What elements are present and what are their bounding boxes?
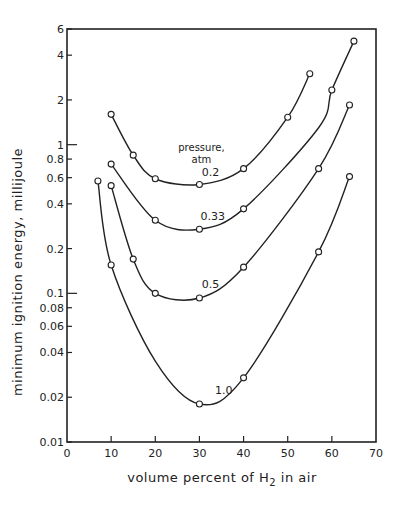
x-tick-label: 10 — [104, 447, 118, 460]
data-point-marker — [316, 249, 322, 255]
data-point-marker — [196, 295, 202, 301]
y-tick-label: 0.6 — [47, 172, 65, 185]
data-point-marker — [241, 166, 247, 172]
data-point-marker — [285, 114, 291, 120]
data-point-marker — [130, 256, 136, 262]
y-tick-label: 0.1 — [47, 287, 65, 300]
y-tick-label: 0.04 — [40, 346, 65, 359]
data-point-marker — [307, 71, 313, 77]
y-tick-label: 0.02 — [40, 391, 65, 404]
y-tick-label: 0.06 — [40, 320, 65, 333]
data-point-marker — [108, 111, 114, 117]
data-point-marker — [196, 181, 202, 187]
data-point-marker — [329, 87, 335, 93]
data-point-marker — [108, 262, 114, 268]
y-tick-label: 4 — [57, 49, 64, 62]
x-tick-label: 60 — [325, 447, 339, 460]
curve-label: 1.0 — [215, 384, 233, 397]
curve-label: 0.2 — [202, 166, 220, 179]
y-tick-label: 2 — [57, 94, 64, 107]
data-point-marker — [108, 161, 114, 167]
curve-label: 0.33 — [200, 210, 225, 223]
data-point-marker — [241, 264, 247, 270]
annotation-atm: atm — [192, 154, 212, 165]
x-axis-title: volume percent of H2 in air — [127, 470, 317, 488]
y-tick-label: 0.01 — [40, 436, 65, 449]
data-point-marker — [152, 176, 158, 182]
y-tick-label: 0.8 — [47, 153, 65, 166]
y-tick-label: 0.2 — [47, 243, 65, 256]
y-axis-ticks: 0.010.020.040.060.080.10.20.40.60.81246 — [40, 23, 78, 449]
y-tick-label: 0.4 — [47, 198, 65, 211]
pressure-annotation: pressure, atm — [178, 142, 224, 165]
ignition-energy-chart: 0.010.020.040.060.080.10.20.40.60.81246 … — [0, 0, 400, 509]
y-tick-label: 1 — [57, 139, 64, 152]
annotation-pressure: pressure, — [178, 142, 224, 153]
y-tick-label: 0.08 — [40, 302, 65, 315]
data-point-marker — [95, 178, 101, 184]
data-point-marker — [196, 401, 202, 407]
data-point-marker — [108, 183, 114, 189]
x-tick-label: 30 — [192, 447, 206, 460]
x-tick-label: 20 — [148, 447, 162, 460]
data-point-marker — [347, 174, 353, 180]
x-axis-ticks: 010203040506070 — [64, 436, 384, 460]
data-point-marker — [152, 217, 158, 223]
data-point-marker — [351, 38, 357, 44]
x-tick-label: 40 — [237, 447, 251, 460]
x-tick-label: 50 — [281, 447, 295, 460]
data-point-marker — [347, 102, 353, 108]
curve-0-33: 0.33 — [108, 38, 357, 232]
data-point-marker — [196, 226, 202, 232]
data-point-marker — [241, 375, 247, 381]
data-point-marker — [152, 290, 158, 296]
curve-label: 0.5 — [202, 278, 220, 291]
y-tick-label: 6 — [57, 23, 64, 36]
curve-1-0: 1.0 — [95, 174, 353, 407]
data-point-marker — [130, 152, 136, 158]
x-tick-label: 0 — [64, 447, 71, 460]
pressure-curves: 0.20.330.51.0 — [95, 38, 357, 407]
curve-line — [111, 41, 354, 230]
x-tick-label: 70 — [369, 447, 383, 460]
y-axis-title: minimum ignition energy, millijoule — [10, 148, 25, 396]
data-point-marker — [241, 206, 247, 212]
data-point-marker — [316, 166, 322, 172]
